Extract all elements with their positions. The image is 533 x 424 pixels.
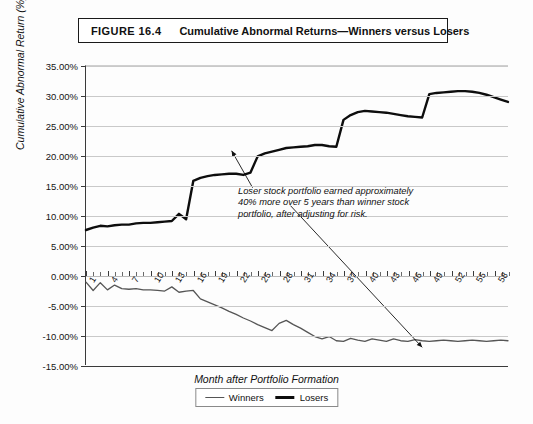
x-tick-mark [344, 271, 345, 276]
x-tick-mark [136, 272, 137, 276]
gridline--15.00% [86, 366, 508, 367]
x-tick-mark [366, 271, 367, 276]
chart-annotation: Loser stock portfolio earned approximate… [238, 186, 433, 220]
figure-number: FIGURE 16.4 [79, 25, 161, 37]
legend-item-losers: Losers [276, 392, 329, 403]
y-axis-label: 30.00% [46, 91, 78, 102]
gridline--5.00% [86, 306, 508, 307]
x-tick-mark [258, 271, 259, 276]
x-tick-mark [129, 271, 130, 276]
x-tick-mark [473, 271, 474, 276]
y-axis-label: -15.00% [43, 361, 78, 372]
legend-label-losers: Losers [300, 392, 329, 403]
x-tick-mark [108, 271, 109, 276]
y-axis-label: 5.00% [51, 241, 78, 252]
y-tick-mark [81, 336, 86, 337]
gridline-25.00% [86, 126, 508, 127]
y-axis-label: 35.00% [46, 61, 78, 72]
x-tick-mark [452, 271, 453, 276]
x-tick-mark [495, 271, 496, 276]
y-axis-label: -10.00% [43, 331, 78, 342]
y-tick-mark [81, 246, 86, 247]
y-axis-label: 10.00% [46, 211, 78, 222]
x-tick-mark [280, 271, 281, 276]
y-tick-mark [81, 156, 86, 157]
y-tick-mark [81, 126, 86, 127]
x-tick-mark [86, 271, 87, 276]
x-tick-mark [93, 272, 94, 276]
gridline-0.00% [86, 276, 508, 277]
x-tick-mark [323, 271, 324, 276]
y-axis-title: Cumulative Abnormal Return (%) [14, 0, 26, 150]
y-tick-mark [81, 96, 86, 97]
winners-line [86, 282, 508, 341]
figure-caption: Cumulative Abnormal Returns—Winners vers… [179, 25, 469, 37]
gridline-35.00% [86, 66, 508, 67]
legend-item-winners: Winners [205, 392, 264, 403]
chart-legend: Winners Losers [195, 388, 338, 407]
losers-line-swatch [276, 396, 295, 399]
figure-title-box: FIGURE 16.4 Cumulative Abnormal Returns—… [78, 18, 448, 43]
x-tick-mark [430, 271, 431, 276]
y-tick-mark [81, 366, 86, 367]
legend-label-winners: Winners [229, 392, 264, 403]
x-tick-mark [151, 271, 152, 276]
y-tick-mark [81, 306, 86, 307]
y-tick-mark [81, 66, 86, 67]
x-tick-mark [215, 271, 216, 276]
y-axis-label: 20.00% [46, 151, 78, 162]
figure-root: FIGURE 16.4 Cumulative Abnormal Returns—… [0, 0, 533, 424]
y-axis-label: 15.00% [46, 181, 78, 192]
x-tick-mark [237, 271, 238, 276]
x-tick-mark [194, 271, 195, 276]
x-tick-mark [143, 272, 144, 276]
y-tick-mark [81, 276, 86, 277]
x-tick-mark [409, 271, 410, 276]
y-axis-label: 25.00% [46, 121, 78, 132]
x-tick-mark [172, 271, 173, 276]
gridline-30.00% [86, 96, 508, 97]
x-tick-mark [387, 271, 388, 276]
y-tick-mark [81, 216, 86, 217]
x-tick-mark [100, 272, 101, 276]
x-axis-title: Month after Portfolio Formation [0, 373, 533, 385]
gridline--10.00% [86, 336, 508, 337]
x-tick-mark [115, 272, 116, 276]
y-axis-label: 0.00% [51, 271, 78, 282]
x-tick-mark [301, 271, 302, 276]
gridline-20.00% [86, 156, 508, 157]
gridline-5.00% [86, 246, 508, 247]
winners-line-swatch [205, 397, 224, 399]
x-tick-mark [122, 272, 123, 276]
y-tick-mark [81, 186, 86, 187]
y-axis-label: -5.00% [48, 301, 78, 312]
